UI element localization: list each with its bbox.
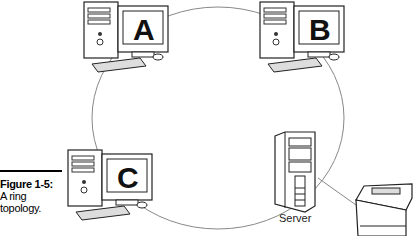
node-label-a: A: [133, 13, 155, 46]
server[interactable]: [275, 132, 315, 212]
caption-text-line1: A ring: [0, 190, 62, 202]
server-label: Server: [279, 212, 311, 224]
mouse-icon: [153, 54, 163, 60]
caption-rule: [0, 170, 62, 172]
workstation-a[interactable]: A: [84, 2, 168, 72]
keyboard-icon: [92, 58, 146, 72]
printer-cable: [318, 178, 356, 205]
caption-title: Figure 1-5:: [0, 178, 62, 190]
mouse-icon: [329, 54, 339, 60]
keyboard-icon: [76, 206, 130, 220]
workstation-c[interactable]: C: [68, 150, 152, 220]
mouse-icon: [137, 202, 147, 208]
printer[interactable]: [356, 184, 412, 236]
ring-topology-diagram: A B C: [0, 0, 417, 236]
figure-caption: Figure 1-5: A ring topology.: [0, 170, 62, 214]
caption-text-line2: topology.: [0, 202, 62, 214]
node-label-b: B: [309, 13, 331, 46]
workstation-b[interactable]: B: [260, 2, 344, 72]
node-label-c: C: [117, 161, 139, 194]
keyboard-icon: [268, 58, 322, 72]
